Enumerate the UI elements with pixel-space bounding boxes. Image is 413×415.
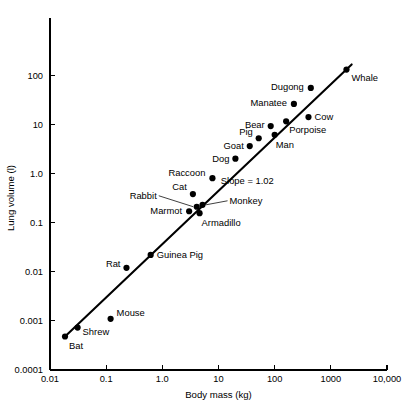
lung-volume-vs-body-mass-chart: 0.00010.0010.010.11.010100 0.010.11.0101…	[0, 0, 413, 415]
x-tick-label: 10,000	[373, 374, 401, 384]
y-tick-label: 100	[27, 71, 43, 81]
data-point	[123, 265, 129, 271]
data-point-labels-group: BatShrewMouseRatGuinea PigMarmotRabbitAr…	[69, 72, 378, 351]
x-axis-title: Body mass (kg)	[185, 389, 252, 400]
scatter-plot-svg: 0.00010.0010.010.11.010100 0.010.11.0101…	[0, 0, 413, 415]
data-point	[291, 101, 297, 107]
point-label: Whale	[351, 72, 378, 83]
data-point	[196, 210, 202, 216]
data-point	[305, 114, 311, 120]
data-point	[256, 135, 262, 141]
point-label: Porpoise	[289, 124, 326, 135]
point-label: Manatee	[250, 97, 286, 108]
y-tick-label: 1.0	[30, 169, 43, 179]
data-point	[308, 85, 314, 91]
chart-annotations-group: Slope = 1.02	[221, 175, 274, 186]
point-label: Guinea Pig	[157, 249, 203, 260]
x-axis-ticks: 0.010.11.010100100010,000	[41, 365, 401, 384]
y-tick-label: 0.1	[30, 218, 43, 228]
x-tick-label: 100	[267, 374, 283, 384]
data-point	[194, 204, 200, 210]
data-point	[232, 156, 238, 162]
y-tick-label: 10	[33, 120, 43, 130]
point-label: Rabbit	[130, 190, 157, 201]
data-point	[186, 208, 192, 214]
point-label: Bat	[69, 340, 83, 351]
data-point	[272, 132, 278, 138]
x-tick-label: 0.1	[100, 374, 113, 384]
y-tick-label: 0.0001	[15, 365, 43, 375]
point-label: Armadillo	[202, 217, 241, 228]
slope-annotation: Slope = 1.02	[221, 175, 274, 186]
y-tick-label: 0.01	[25, 267, 43, 277]
point-label: Dog	[212, 153, 229, 164]
point-label: Cow	[314, 111, 333, 122]
point-label: Cat	[172, 181, 187, 192]
x-tick-label: 1000	[320, 374, 341, 384]
data-point	[247, 143, 253, 149]
point-label: Man	[276, 139, 294, 150]
axes-group	[50, 18, 387, 370]
y-axis-ticks: 0.00010.0010.010.11.010100	[15, 71, 55, 376]
data-point	[209, 175, 215, 181]
x-tick-label: 1.0	[156, 374, 169, 384]
y-tick-label: 0.001	[20, 316, 43, 326]
point-label: Bear	[245, 119, 265, 130]
y-axis-title: Lung volume (l)	[5, 165, 16, 231]
point-label: Goat	[223, 140, 244, 151]
point-label: Monkey	[230, 195, 263, 206]
point-label: Marmot	[150, 205, 182, 216]
point-label: Dugong	[271, 81, 304, 92]
x-tick-label: 10	[213, 374, 223, 384]
point-label: Rat	[106, 258, 121, 269]
data-point	[62, 333, 68, 339]
data-point	[108, 316, 114, 322]
point-label: Mouse	[117, 307, 145, 318]
point-label: Shrew	[83, 326, 110, 337]
x-tick-label: 0.01	[41, 374, 59, 384]
data-point	[148, 252, 154, 258]
data-point	[74, 324, 80, 330]
data-point	[190, 191, 196, 197]
data-point	[199, 202, 205, 208]
regression-fit-line	[65, 64, 352, 336]
data-point	[343, 66, 349, 72]
data-point	[268, 123, 274, 129]
point-label: Raccoon	[168, 167, 205, 178]
